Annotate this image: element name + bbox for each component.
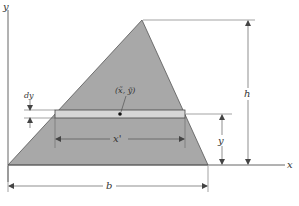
triangle-area	[8, 20, 208, 165]
centroid-label: (x̃, ỹ)	[115, 86, 135, 95]
dy-label: dy	[24, 91, 34, 100]
h-label: h	[244, 88, 250, 99]
x-prime-label: x'	[113, 133, 121, 144]
b-label: b	[106, 180, 112, 191]
x-axis-label: x	[287, 159, 293, 170]
y-axis-label: y	[2, 1, 9, 12]
triangle-centroid-diagram: y x dy (x̃, ỹ) x' y h b	[0, 0, 299, 206]
centroid-point	[118, 112, 122, 116]
y-dim-label: y	[217, 135, 224, 146]
